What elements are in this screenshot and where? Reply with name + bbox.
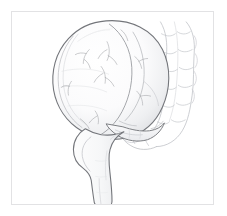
appendix bbox=[73, 129, 123, 204]
cecum-outline bbox=[53, 21, 169, 140]
anatomy-illustration bbox=[12, 12, 213, 204]
figure-frame bbox=[11, 11, 214, 205]
top-text-remnant bbox=[0, 0, 227, 7]
cecum bbox=[53, 21, 169, 140]
